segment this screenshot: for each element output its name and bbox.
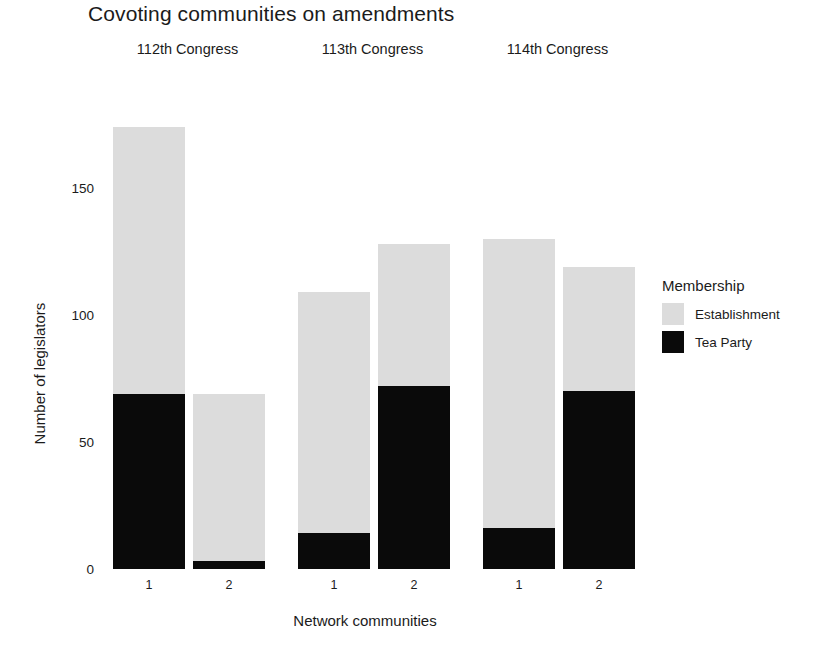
y-axis-title: Number of legislators [31, 259, 48, 489]
x-tick-label: 1 [113, 578, 185, 592]
bar-segment-tea-party[interactable] [483, 528, 555, 569]
bar-segment-establishment[interactable] [193, 394, 265, 562]
x-tick-label: 2 [563, 578, 635, 592]
bar-stack[interactable] [193, 394, 265, 569]
x-tick-label: 2 [378, 578, 450, 592]
legend-swatch-icon [662, 331, 684, 353]
legend-entry-label: Establishment [695, 307, 780, 322]
bar-stack[interactable] [298, 292, 370, 569]
legend-entry[interactable]: Establishment [662, 303, 812, 325]
bar-stack[interactable] [563, 267, 635, 569]
facet-panel-1 [100, 70, 275, 569]
legend-swatch-icon [662, 303, 684, 325]
x-tick-label: 1 [483, 578, 555, 592]
x-tick-label: 2 [193, 578, 265, 592]
bar-segment-tea-party[interactable] [193, 561, 265, 569]
legend-entry-label: Tea Party [695, 335, 752, 350]
facet-label-2: 113th Congress [285, 41, 460, 63]
bar-segment-establishment[interactable] [563, 267, 635, 391]
facet-panel-3 [470, 70, 645, 569]
facet-label-1: 112th Congress [100, 41, 275, 63]
bar-segment-tea-party[interactable] [298, 533, 370, 569]
legend-title: Membership [662, 277, 812, 294]
y-tick-label: 100 [50, 308, 94, 323]
facet-label-3: 114th Congress [470, 41, 645, 63]
bar-segment-establishment[interactable] [483, 239, 555, 529]
y-tick-label: 0 [50, 562, 94, 577]
chart-title: Covoting communities on amendments [88, 2, 454, 26]
y-tick-label: 150 [50, 181, 94, 196]
legend: Membership EstablishmentTea Party [662, 277, 812, 359]
x-tick-label: 1 [298, 578, 370, 592]
bar-segment-establishment[interactable] [298, 292, 370, 533]
bar-segment-establishment[interactable] [113, 127, 185, 394]
x-axis-title: Network communities [100, 612, 630, 629]
y-axis-tick-labels: 050100150 [46, 0, 94, 655]
bar-stack[interactable] [113, 127, 185, 569]
bar-segment-tea-party[interactable] [563, 391, 635, 569]
bar-segment-tea-party[interactable] [113, 394, 185, 569]
bar-segment-tea-party[interactable] [378, 386, 450, 569]
bar-stack[interactable] [483, 239, 555, 569]
legend-entry[interactable]: Tea Party [662, 331, 812, 353]
facet-panel-2 [285, 70, 460, 569]
chart-figure: Covoting communities on amendments Numbe… [0, 0, 813, 655]
y-tick-label: 50 [50, 435, 94, 450]
bar-segment-establishment[interactable] [378, 244, 450, 386]
legend-entries: EstablishmentTea Party [662, 303, 812, 353]
bar-stack[interactable] [378, 244, 450, 569]
